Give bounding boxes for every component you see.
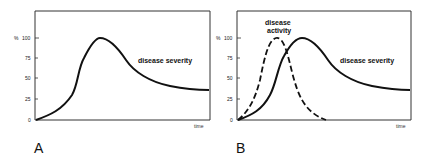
ytick-0-b: 0 xyxy=(230,117,233,123)
percent-label-b: % xyxy=(216,35,221,41)
activity-label-line2: activity xyxy=(267,27,291,35)
ytick-50-b: 50 xyxy=(227,75,233,81)
percent-label: % xyxy=(14,35,19,41)
activity-curve-b xyxy=(238,38,326,120)
ytick-25: 25 xyxy=(25,96,31,102)
ytick-25-b: 25 xyxy=(227,96,233,102)
time-label-b: time xyxy=(396,123,406,129)
panel-label-a: A xyxy=(34,140,44,156)
panel-a: % 100 75 50 25 0 disease severity time A xyxy=(14,11,210,156)
severity-curve-b xyxy=(238,38,410,120)
severity-label-b: disease severity xyxy=(340,57,394,65)
ytick-75: 75 xyxy=(25,55,31,61)
panel-a-frame xyxy=(35,11,210,120)
severity-curve-a xyxy=(36,38,209,120)
ytick-50: 50 xyxy=(25,75,31,81)
ytick-100-b: 100 xyxy=(224,35,233,41)
panel-b: % 100 75 50 25 0 disease activity diseas… xyxy=(216,11,411,156)
time-label-a: time xyxy=(194,123,204,129)
panel-label-b: B xyxy=(236,140,245,156)
activity-label-line1: disease xyxy=(265,19,291,26)
ytick-75-b: 75 xyxy=(227,55,233,61)
ytick-100: 100 xyxy=(22,35,31,41)
severity-label-a: disease severity xyxy=(138,57,192,65)
figure: % 100 75 50 25 0 disease severity time A… xyxy=(0,0,426,159)
ytick-0: 0 xyxy=(28,117,31,123)
